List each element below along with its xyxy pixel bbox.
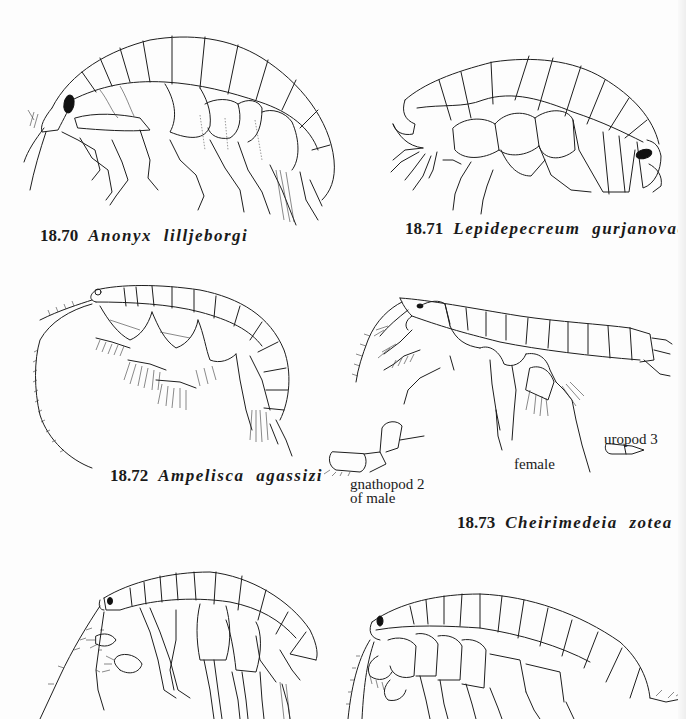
figure-number: 18.70 [40, 226, 78, 245]
figure-plate-page: 18.70Anonyx lilljeborgi [0, 0, 686, 719]
figure-18-71-drawing [343, 0, 686, 225]
amphipod-drawing-icon [343, 0, 686, 225]
figure-18-72-drawing [0, 260, 320, 470]
annotation-uropod-3: uropod 3 [604, 432, 658, 447]
figure-caption-18-70: 18.70Anonyx lilljeborgi [40, 226, 248, 246]
figure-caption-18-72: 18.72Ampelisca agassizi [110, 466, 323, 486]
annotation-of-male: of male [350, 491, 395, 506]
amphipod-drawing-icon [0, 560, 330, 719]
amphipod-drawing-icon [0, 0, 343, 235]
page-edge-shadow [678, 0, 686, 719]
species-name: Lepidepecreum gurjanovae [453, 219, 686, 238]
amphipod-drawing-icon [0, 260, 320, 470]
species-name: Ampelisca agassizi [158, 466, 323, 485]
species-name: Anonyx lilljeborgi [88, 226, 248, 245]
figure-bottom-right-partial-drawing [330, 580, 686, 719]
figure-18-70-drawing [0, 0, 343, 235]
figure-bottom-left-partial-drawing [0, 560, 330, 719]
figure-number: 18.71 [405, 219, 443, 238]
annotation-female: female [514, 457, 555, 472]
species-name: Cheirimedeia zotea [505, 513, 673, 532]
figure-caption-18-73: 18.73Cheirimedeia zotea [457, 513, 673, 533]
figure-number: 18.72 [110, 466, 148, 485]
amphipod-drawing-icon [330, 580, 686, 719]
figure-number: 18.73 [457, 513, 495, 532]
figure-caption-18-71: 18.71Lepidepecreum gurjanovae [405, 219, 686, 239]
